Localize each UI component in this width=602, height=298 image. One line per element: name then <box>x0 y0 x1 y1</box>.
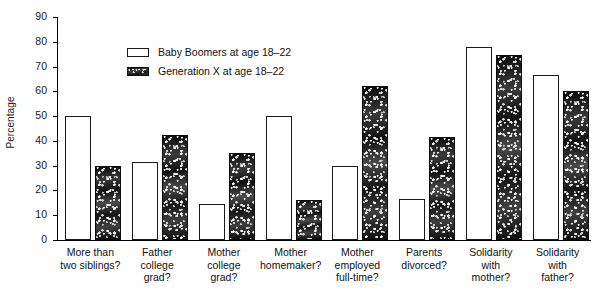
y-axis-tick-label: 40 <box>35 134 47 146</box>
y-axis-title-text: Percentage <box>5 96 16 148</box>
y-axis-title: Percentage <box>0 0 20 245</box>
x-axis-category-label: Solidaritywithfather? <box>518 246 597 284</box>
bar-baby-boomers <box>399 199 425 240</box>
bar-generation-x <box>162 135 188 240</box>
bar-group <box>458 17 525 240</box>
bar-baby-boomers <box>266 116 292 240</box>
y-axis-tick-label: 80 <box>35 35 47 47</box>
y-axis-tick-label: 60 <box>35 84 47 96</box>
y-axis-tick-label: 30 <box>35 159 47 171</box>
y-axis-tick-label: 90 <box>35 10 47 22</box>
x-axis-category-labels: More thantwo siblings?Fathercollegegrad?… <box>57 246 591 296</box>
bar-baby-boomers <box>199 204 225 240</box>
bar-group <box>324 17 391 240</box>
bar-baby-boomers <box>466 47 492 240</box>
chart-legend: Baby Boomers at age 18–22Generation X at… <box>127 46 291 77</box>
bar-baby-boomers <box>132 162 158 240</box>
legend-swatch-baby-boomers <box>127 48 149 57</box>
y-axis-tick-label: 70 <box>35 60 47 72</box>
bar-group <box>524 17 591 240</box>
legend-label: Baby Boomers at age 18–22 <box>158 46 291 58</box>
y-axis-tick-label: 10 <box>35 208 47 220</box>
bar-generation-x <box>496 55 522 240</box>
x-axis-line <box>56 240 591 241</box>
bar-generation-x <box>362 86 388 240</box>
legend-label: Generation X at age 18–22 <box>158 65 284 77</box>
bar-generation-x <box>95 166 121 240</box>
legend-swatch-generation-x <box>127 67 149 76</box>
bar-generation-x <box>296 200 322 240</box>
bar-baby-boomers <box>533 75 559 240</box>
y-axis-tick-label: 20 <box>35 183 47 195</box>
bar-generation-x <box>229 153 255 240</box>
bar-generation-x <box>429 137 455 240</box>
legend-entry: Generation X at age 18–22 <box>127 65 291 77</box>
bar-generation-x <box>563 91 589 240</box>
y-axis-tick-label: 0 <box>41 233 47 245</box>
bar-group <box>57 17 124 240</box>
bar-baby-boomers <box>332 166 358 240</box>
legend-entry: Baby Boomers at age 18–22 <box>127 46 291 58</box>
y-axis-tick-mark <box>53 240 57 241</box>
bar-group <box>391 17 458 240</box>
y-axis-tick-label: 50 <box>35 109 47 121</box>
bar-baby-boomers <box>65 116 91 240</box>
bar-chart: Percentage 0102030405060708090 Baby Boom… <box>0 0 602 298</box>
